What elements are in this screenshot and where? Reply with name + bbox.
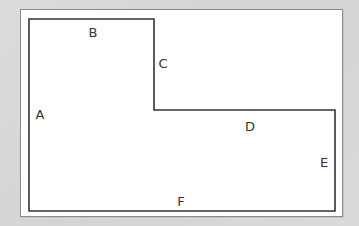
side-label-e: E xyxy=(320,156,328,169)
side-label-d: D xyxy=(245,120,255,133)
side-label-c: C xyxy=(158,57,167,70)
l-shaped-polygon xyxy=(0,0,359,226)
side-label-b: B xyxy=(89,26,98,39)
side-label-a: A xyxy=(36,108,45,121)
polygon-outline xyxy=(29,19,335,211)
side-label-f: F xyxy=(177,195,184,208)
